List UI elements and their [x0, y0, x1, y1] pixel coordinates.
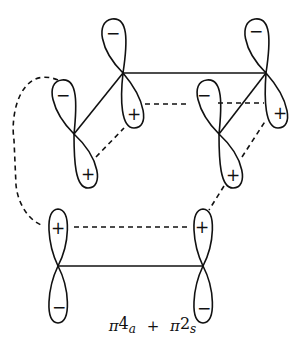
caption-term1-symbol: π [109, 317, 119, 335]
atom-d: − + [197, 80, 243, 188]
overlap-d-b-lower [242, 120, 266, 157]
sign-e-bottom: − [52, 297, 66, 317]
sign-a-bottom: + [127, 104, 141, 124]
sign-c-bottom: + [81, 164, 95, 184]
sign-d-top: − [197, 85, 211, 105]
caption-term2-symbol: π [170, 317, 180, 335]
caption-term2-electrons: 2 [180, 314, 190, 333]
sign-b-top: − [249, 21, 263, 41]
sign-a-top: − [106, 23, 120, 43]
caption-term1-electrons: 4 [119, 314, 129, 333]
overlap-c-a [96, 128, 124, 157]
overlap-d-f [209, 186, 224, 210]
overlap-c-e-arc [13, 77, 58, 226]
caption-term2-mode: s [190, 322, 196, 336]
sign-f-top: + [195, 217, 209, 237]
bond-c-a [74, 73, 123, 134]
atom-c: − + [52, 80, 97, 188]
diagram-caption: π4a + π2s [0, 316, 305, 335]
orbital-diagram: − + − + − + − + + − + − [0, 0, 305, 348]
sign-b-bottom: + [273, 103, 287, 123]
sign-d-bottom: + [226, 165, 240, 185]
sign-e-top: + [51, 218, 65, 238]
sign-c-top: − [56, 85, 70, 105]
sign-f-bottom: − [197, 298, 211, 318]
caption-term1-mode: a [129, 322, 136, 336]
caption-operator: + [147, 317, 160, 335]
